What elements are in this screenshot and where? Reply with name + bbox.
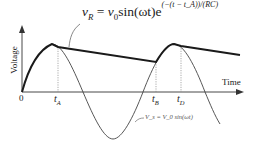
sine-annotation-leader-line [135, 118, 144, 122]
y-axis-arrow-icon [19, 25, 25, 33]
equation-leader-line [69, 24, 80, 47]
y-axis-label: Voltage [9, 42, 19, 78]
tick-tA: tA [54, 93, 61, 106]
decay-equation: vR = v0sin(ωt)e(−(t − t_A))/(RC) [82, 4, 218, 22]
tick-tB: tB [152, 93, 159, 106]
rectifier-voltage-diagram [0, 0, 257, 149]
equation-lhs-sub: R [88, 12, 93, 22]
equation-sin-term: sin(ωt)e [118, 4, 161, 19]
sine-annotation: V_s = V_0 sin(ωt) [145, 113, 193, 120]
tick-tA-sub: A [57, 99, 61, 106]
output-voltage-envelope [22, 44, 240, 92]
tick-tB-sub: B [155, 99, 159, 106]
origin-label: 0 [19, 93, 24, 103]
equation-equals: = [97, 4, 105, 19]
x-axis-label: Time [222, 77, 241, 87]
equation-exponent: (−(t − t_A))/(RC) [162, 0, 219, 9]
tick-tD: tD [177, 93, 184, 106]
tick-tD-sub: D [180, 99, 185, 106]
x-axis-arrow-icon [236, 89, 244, 95]
axes [19, 25, 244, 95]
